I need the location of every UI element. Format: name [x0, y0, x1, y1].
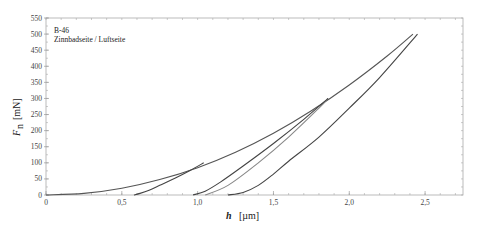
annotation-side: Zinnbadseite / Luftseite: [54, 35, 126, 44]
curve-unloading-100-mn: [134, 163, 204, 195]
x-tick-label: 2,5: [420, 198, 430, 207]
y-tick-label: 200: [31, 126, 43, 135]
x-axis-symbol: h: [226, 210, 232, 221]
y-axis-unit: [mN]: [11, 98, 22, 120]
y-tick-label: 50: [35, 174, 43, 183]
x-tick-label: 2,0: [345, 198, 355, 207]
x-tick-label: 0: [44, 198, 48, 207]
indentation-chart: 00,51,01,52,02,5 05010015020025030035040…: [0, 0, 479, 235]
y-axis-subscript: n: [14, 124, 25, 129]
curve-loading: [46, 34, 413, 195]
y-tick-label: 550: [31, 14, 43, 23]
x-tick-label: 0,5: [117, 198, 127, 207]
x-tick-label: 1,5: [269, 198, 279, 207]
curve-unloading-500-mn: [228, 34, 418, 195]
y-tick-label: 400: [31, 62, 43, 71]
y-tick-label: 350: [31, 78, 43, 87]
x-axis-label: h [µm]: [226, 210, 259, 221]
x-tick-label: 1,0: [193, 198, 203, 207]
y-axis-symbol: F: [11, 129, 22, 137]
y-tick-label: 150: [31, 142, 43, 151]
y-axis-label: F n [mN]: [11, 98, 25, 137]
y-tick-label: 500: [31, 30, 43, 39]
y-tick-label: 300: [31, 94, 43, 103]
x-axis-ticks: 00,51,01,52,02,5: [44, 18, 455, 207]
y-tick-label: 250: [31, 110, 43, 119]
x-axis-unit: [µm]: [239, 210, 259, 221]
curves: [46, 34, 418, 195]
y-tick-label: 450: [31, 46, 43, 55]
y-tick-label: 100: [31, 158, 43, 167]
y-tick-label: 0: [38, 191, 42, 200]
annotation-sample-id: B-46: [54, 26, 69, 35]
